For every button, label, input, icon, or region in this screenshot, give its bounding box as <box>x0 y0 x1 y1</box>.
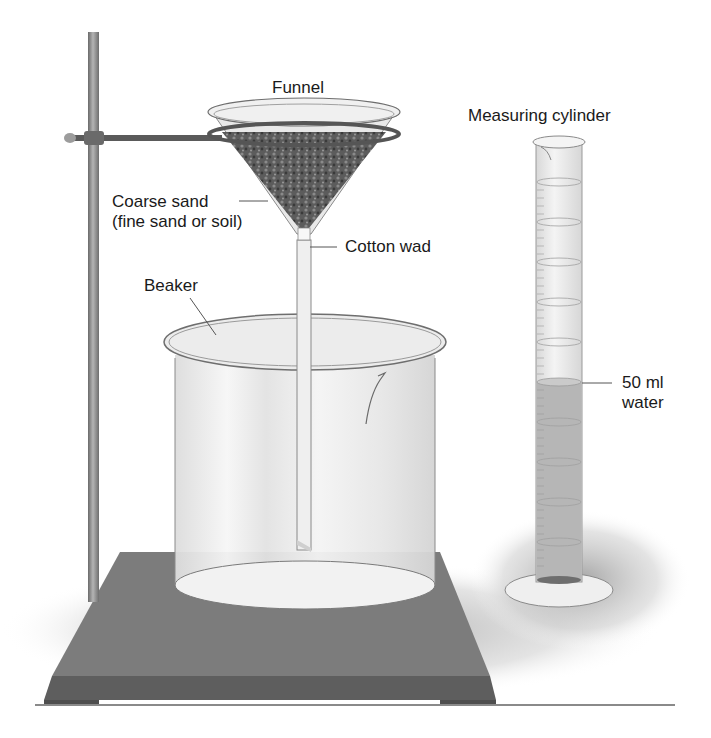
clamp-arm <box>64 131 222 145</box>
coarse-sand-label: Coarse sand (fine sand or soil) <box>112 192 242 232</box>
water-label-line1: 50 ml <box>622 373 664 393</box>
filtration-diagram: Funnel Measuring cylinder Coarse sand (f… <box>0 0 711 738</box>
coarse-sand-label-line1: Coarse sand <box>112 192 242 212</box>
coarse-sand-label-line2: (fine sand or soil) <box>112 212 242 232</box>
funnel-label: Funnel <box>272 78 324 98</box>
water-label-line2: water <box>622 393 664 413</box>
ring-stand-rod <box>88 32 99 602</box>
measuring-cylinder-label: Measuring cylinder <box>468 106 611 126</box>
water-label: 50 ml water <box>622 373 664 413</box>
cotton-wad <box>298 228 310 240</box>
cotton-wad-label: Cotton wad <box>345 237 431 257</box>
funnel-stem <box>297 240 311 552</box>
beaker-label: Beaker <box>144 276 198 296</box>
bottom-rule <box>35 704 675 706</box>
